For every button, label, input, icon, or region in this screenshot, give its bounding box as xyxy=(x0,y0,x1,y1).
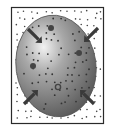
particle xyxy=(53,33,55,35)
particle xyxy=(37,60,39,62)
particle xyxy=(67,74,69,76)
particle xyxy=(16,34,18,36)
particle xyxy=(32,18,34,20)
particle xyxy=(99,109,101,111)
particle xyxy=(67,117,69,119)
particle xyxy=(88,47,90,49)
particle xyxy=(33,59,35,61)
particle xyxy=(94,116,96,118)
particle xyxy=(93,38,95,40)
particle xyxy=(60,82,62,84)
particle xyxy=(43,108,45,110)
particle xyxy=(100,11,102,13)
particle xyxy=(37,81,39,83)
particle xyxy=(88,87,90,89)
particle xyxy=(74,40,76,42)
particle xyxy=(60,10,62,12)
particle xyxy=(58,54,60,56)
particle xyxy=(26,54,28,56)
particle xyxy=(64,101,66,103)
particle xyxy=(80,24,82,26)
particle xyxy=(75,101,77,103)
particle xyxy=(81,118,83,120)
particle xyxy=(93,25,95,27)
particle xyxy=(75,18,77,20)
particle xyxy=(85,81,87,83)
particle xyxy=(86,25,88,27)
large-particle xyxy=(30,63,36,69)
particle xyxy=(96,13,98,15)
particle xyxy=(94,47,96,49)
particle xyxy=(45,32,47,34)
particle xyxy=(46,38,48,40)
particle xyxy=(46,11,48,13)
particle xyxy=(17,11,19,13)
particle xyxy=(23,73,25,75)
diagram xyxy=(0,0,114,131)
particle xyxy=(80,47,82,49)
particle xyxy=(32,52,34,54)
particle xyxy=(46,81,48,83)
particle xyxy=(74,10,76,12)
particle xyxy=(15,82,17,84)
particle xyxy=(37,12,39,14)
particle xyxy=(78,74,80,76)
particle xyxy=(86,10,88,12)
particle xyxy=(86,116,88,118)
particle xyxy=(30,116,32,118)
particle xyxy=(47,53,49,55)
particle xyxy=(88,68,90,70)
particle xyxy=(31,11,33,13)
particle xyxy=(100,116,102,118)
particle xyxy=(17,87,19,89)
particle xyxy=(95,17,97,19)
particle xyxy=(78,31,80,33)
particle xyxy=(16,101,18,103)
particle xyxy=(31,82,33,84)
particle xyxy=(54,94,56,96)
particle xyxy=(68,95,70,97)
particle xyxy=(38,25,40,27)
particle xyxy=(85,74,87,76)
particle xyxy=(96,111,98,113)
particle xyxy=(30,110,32,112)
particle xyxy=(71,74,73,76)
particle xyxy=(24,18,26,20)
particle xyxy=(51,117,53,119)
particle xyxy=(26,117,28,119)
particle xyxy=(75,61,77,63)
particle xyxy=(80,11,82,13)
particle xyxy=(74,52,76,54)
particle xyxy=(46,116,48,118)
particle xyxy=(23,10,25,12)
particle xyxy=(71,80,73,82)
particle xyxy=(87,19,89,21)
particle xyxy=(61,103,63,105)
particle xyxy=(16,117,18,119)
particle xyxy=(60,18,62,20)
particle xyxy=(85,52,87,54)
particle xyxy=(100,95,102,97)
particle xyxy=(52,18,54,20)
particle xyxy=(57,40,59,42)
particle xyxy=(72,33,74,35)
particle xyxy=(86,109,88,111)
particle xyxy=(87,33,89,35)
particle xyxy=(32,26,34,28)
particle xyxy=(51,12,53,14)
particle xyxy=(38,53,40,55)
particle xyxy=(46,25,48,27)
particle xyxy=(66,88,68,90)
large-particle xyxy=(48,25,54,31)
particle xyxy=(68,53,70,55)
particle xyxy=(65,80,67,82)
particle xyxy=(39,74,41,76)
particle xyxy=(51,73,53,75)
particle xyxy=(16,94,18,96)
particle xyxy=(100,68,102,70)
particle xyxy=(79,19,81,21)
particle xyxy=(66,10,68,12)
large-particle xyxy=(76,50,82,56)
particle xyxy=(39,116,41,118)
particle xyxy=(24,26,26,28)
